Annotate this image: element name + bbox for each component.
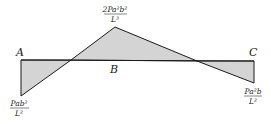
point-label-c: C [249, 46, 258, 59]
right-end-numerator: Pa²b [244, 87, 262, 96]
bending-moment-diagram: A B C 2Pa²b² L³ Pab² L² Pa²b L² [0, 0, 271, 124]
left-end-denominator: L² [14, 109, 23, 118]
right-end-denominator: L² [248, 97, 257, 106]
peak-numerator: 2Pa²b² [102, 5, 128, 14]
point-label-b: B [109, 63, 118, 76]
left-negative-region [21, 60, 71, 96]
left-end-numerator: Pab² [10, 99, 28, 108]
point-label-a: A [15, 46, 24, 59]
center-positive-region [71, 27, 197, 61]
peak-denominator: L³ [110, 15, 119, 24]
right-negative-region [197, 61, 254, 83]
